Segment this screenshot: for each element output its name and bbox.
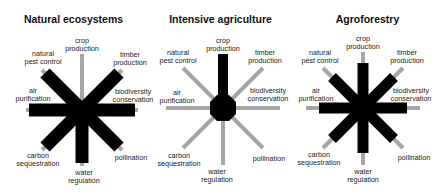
label-timber-production: timberproduction	[113, 51, 147, 67]
label-crop-production: cropproduction	[346, 35, 380, 51]
label-water-regulation: waterregulation	[68, 169, 100, 185]
panel-natural-ecosystems: Natural ecosystems	[0, 0, 147, 194]
label-natural-pest-control: naturalpest control	[159, 49, 196, 65]
label-timber-production: timberproduction	[248, 49, 282, 65]
label-pollination: pollination	[398, 154, 430, 162]
label-carbon-sequestration: carbonsequestration	[16, 152, 59, 168]
label-carbon-sequestration: carbonsequestration	[157, 152, 200, 168]
label-carbon-sequestration: carbonsequestration	[297, 151, 340, 167]
label-pollination: pollination	[253, 155, 285, 163]
label-pollination: pollination	[115, 154, 147, 162]
label-biodiversity-conservation: biodiversityconservation	[248, 87, 289, 103]
label-air-purification: airpurification	[299, 87, 334, 103]
label-crop-production: cropproduction	[65, 37, 99, 53]
label-water-regulation: waterregulation	[347, 168, 379, 184]
panel-agroforestry: Agroforestry	[294, 0, 441, 194]
label-natural-pest-control: naturalpest control	[301, 49, 338, 65]
label-air-purification: airpurification	[160, 89, 195, 105]
panel-intensive-agriculture: Intensive agriculture cropproduction tim…	[147, 0, 294, 194]
label-timber-production: timberproduction	[390, 49, 424, 65]
label-natural-pest-control: naturalpest control	[24, 50, 61, 66]
label-biodiversity-conservation: biodiversityconservation	[391, 87, 432, 103]
label-crop-production: cropproduction	[206, 37, 240, 53]
label-water-regulation: waterregulation	[201, 168, 233, 184]
label-air-purification: airpurification	[16, 87, 51, 103]
